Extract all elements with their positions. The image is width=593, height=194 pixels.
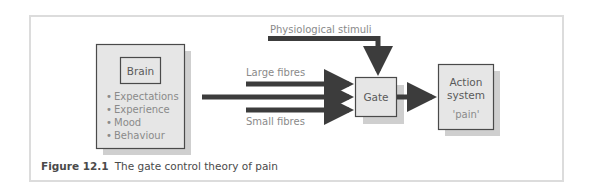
- gate-label: Gate: [363, 91, 388, 103]
- bullet-icon: •: [106, 130, 112, 141]
- figure-caption: Figure 12.1The gate control theory of pa…: [41, 160, 278, 172]
- brain-box: Brain • Expectations • Experience • Mood…: [97, 45, 192, 156]
- figure-caption-text: The gate control theory of pain: [115, 160, 278, 172]
- action-line2: system: [447, 89, 485, 101]
- brain-item-mood: Mood: [114, 117, 141, 128]
- brain-item-behaviour: Behaviour: [114, 130, 166, 141]
- figure-number: Figure 12.1: [41, 160, 109, 172]
- label-small-fibres: Small fibres: [246, 116, 305, 127]
- brain-item-expectations: Expectations: [114, 91, 179, 102]
- action-line1: Action: [450, 76, 483, 88]
- bullet-icon: •: [106, 104, 112, 115]
- action-sub: 'pain': [452, 109, 479, 120]
- bullet-icon: •: [106, 91, 112, 102]
- brain-title: Brain: [127, 65, 155, 77]
- label-large-fibres: Large fibres: [246, 67, 305, 78]
- brain-item-experience: Experience: [114, 104, 170, 115]
- bullet-icon: •: [106, 117, 112, 128]
- gate-box: Gate: [356, 78, 405, 125]
- action-system-box: Action system 'pain': [439, 65, 501, 137]
- label-physiological-stimuli: Physiological stimuli: [270, 24, 372, 35]
